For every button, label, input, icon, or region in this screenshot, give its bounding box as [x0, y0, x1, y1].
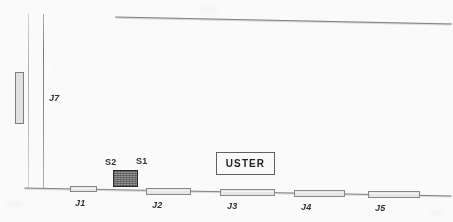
bar-j5 [368, 191, 420, 198]
bar-j1 [70, 186, 97, 192]
label-s1: S1 [136, 157, 148, 166]
label-j3: J3 [227, 202, 238, 211]
uster-callout-box: USTER [216, 152, 275, 175]
bar-j7-riser [15, 72, 24, 124]
label-s2: S2 [105, 158, 117, 167]
diagram-canvas: USTER J7 S2 S1 J1 J2 J3 J4 J5 [0, 0, 453, 222]
label-j1: J1 [75, 199, 86, 208]
uster-label: USTER [226, 158, 265, 169]
label-j7: J7 [49, 94, 60, 103]
left-vertical-faint-line [28, 14, 29, 188]
bar-j3 [220, 189, 275, 196]
bar-j4 [294, 190, 345, 197]
label-j5: J5 [375, 204, 386, 213]
sensor-block [113, 170, 138, 187]
label-j4: J4 [301, 203, 312, 212]
bar-j2 [146, 188, 191, 195]
left-vertical-main-line [43, 14, 44, 188]
label-j2: J2 [152, 201, 163, 210]
